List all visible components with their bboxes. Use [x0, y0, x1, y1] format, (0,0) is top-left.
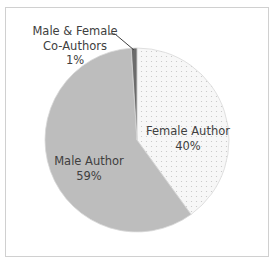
co-authors-label-value: 1%	[66, 53, 84, 67]
female-author-value: 40%	[175, 139, 201, 153]
male-author-label: Male Author	[54, 154, 124, 168]
co-authors-label-line1: Male & Female	[32, 24, 117, 38]
co-authors-leader-line-diag	[115, 34, 134, 50]
pie-slices	[45, 48, 229, 232]
pie-chart: Male & Female Co-Authors 1% Female Autho…	[0, 0, 275, 263]
male-author-value: 59%	[76, 169, 102, 183]
female-author-label: Female Author	[146, 124, 230, 138]
co-authors-label-line2: Co-Authors	[43, 39, 107, 53]
